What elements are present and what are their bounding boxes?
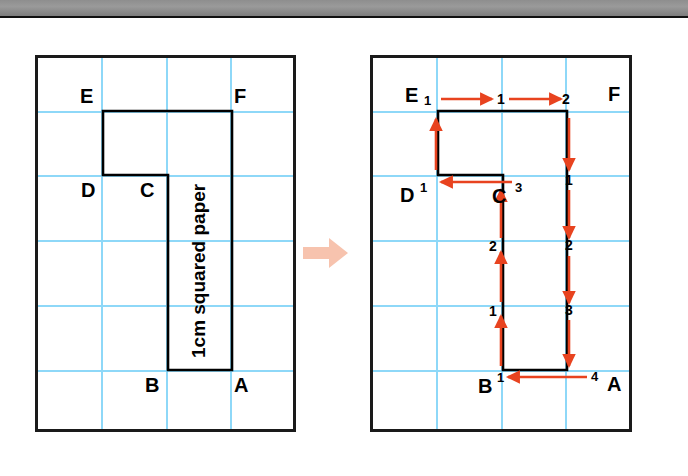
left-label-A: A [234, 375, 248, 395]
left-label-E: E [80, 86, 93, 106]
count-right-2: 2 [565, 238, 573, 252]
count-right-3: 3 [565, 303, 573, 317]
left-label-B: B [145, 375, 159, 395]
right-label-A: A [607, 374, 621, 394]
right-label-C: C [492, 186, 506, 206]
grid-line-horizontal [373, 240, 629, 242]
count-top-2: 2 [562, 92, 570, 106]
transition-arrow-icon [303, 236, 349, 270]
grid-line-vertical [436, 58, 438, 429]
grid-line-horizontal [38, 111, 293, 113]
left-label-C: C [140, 180, 154, 200]
right-label-D: D [400, 185, 414, 205]
superscript-A-4: 4 [591, 370, 598, 383]
grid-line-vertical [166, 58, 168, 429]
count-left-1: 1 [489, 304, 497, 318]
grid-line-horizontal [38, 240, 293, 242]
grid-line-horizontal [38, 370, 293, 372]
diagram-stage: E F D C B A 1cm squared paper E F D C B … [0, 0, 688, 476]
grid-line-horizontal [38, 305, 293, 307]
left-label-D: D [81, 180, 95, 200]
right-label-F: F [608, 84, 620, 104]
count-right-1: 1 [565, 173, 573, 187]
right-label-E: E [405, 85, 418, 105]
superscript-D-1: 1 [420, 181, 427, 194]
count-top-1: 1 [497, 92, 505, 106]
count-left-2: 2 [489, 239, 497, 253]
grid-line-vertical [101, 58, 103, 429]
left-label-F: F [234, 86, 246, 106]
left-grid-frame [35, 55, 296, 432]
superscript-B-1: 1 [497, 371, 504, 384]
grid-line-horizontal [373, 111, 629, 113]
grid-line-horizontal [373, 305, 629, 307]
squared-paper-caption: 1cm squared paper [188, 184, 210, 358]
grid-line-horizontal [38, 175, 293, 177]
grid-line-horizontal [373, 175, 629, 177]
superscript-E-1: 1 [424, 94, 431, 107]
grid-line-vertical [230, 58, 232, 429]
right-label-B: B [478, 376, 492, 396]
superscript-C-3: 3 [515, 181, 522, 194]
